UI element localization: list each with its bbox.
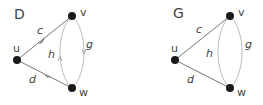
node-label-u: u: [13, 42, 20, 55]
node-label-w: w: [237, 86, 246, 99]
edge-c: [17, 16, 72, 60]
node-w: [226, 84, 234, 92]
edge-label-d: d: [187, 73, 195, 86]
node-u: [171, 56, 179, 64]
graph-title: D: [14, 6, 25, 22]
diagram-canvas: D c d g h u v w G: [0, 0, 263, 105]
node-label-u: u: [171, 42, 178, 55]
edge-label-h: h: [206, 47, 213, 60]
edge-label-d: d: [29, 73, 37, 86]
node-label-v: v: [80, 6, 87, 19]
node-v: [226, 12, 234, 20]
edge-c: [175, 16, 230, 60]
edge-label-c: c: [37, 24, 43, 37]
node-label-w: w: [79, 86, 88, 99]
edge-label-g: g: [86, 38, 93, 51]
edge-g: [72, 16, 86, 88]
graph-g: G c d g h u v w: [171, 5, 252, 99]
graph-title: G: [173, 5, 184, 21]
edge-g: [230, 16, 242, 88]
edge-label-h: h: [48, 48, 55, 61]
node-v: [68, 12, 76, 20]
digraph-d: D c d g h u v w: [13, 6, 93, 99]
node-w: [68, 84, 76, 92]
node-label-v: v: [238, 6, 245, 19]
edge-h: [218, 16, 230, 88]
edge-label-g: g: [245, 38, 252, 51]
edge-label-c: c: [196, 23, 202, 36]
node-u: [13, 56, 21, 64]
edge-h: [58, 16, 72, 88]
